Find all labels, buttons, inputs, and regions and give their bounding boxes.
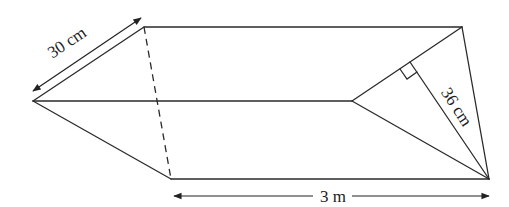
front-edge-hidden xyxy=(144,27,171,179)
prism-svg: 30 cm 36 cm 3 m xyxy=(0,0,509,207)
prism-diagram: 30 cm 36 cm 3 m xyxy=(0,0,509,207)
height-line xyxy=(410,62,489,179)
right-angle-marker xyxy=(400,69,417,79)
length-label: 3 m xyxy=(320,187,346,206)
side-label: 30 cm xyxy=(44,23,89,62)
front-edge-left-bottom xyxy=(33,101,171,179)
height-label: 36 cm xyxy=(437,84,476,130)
